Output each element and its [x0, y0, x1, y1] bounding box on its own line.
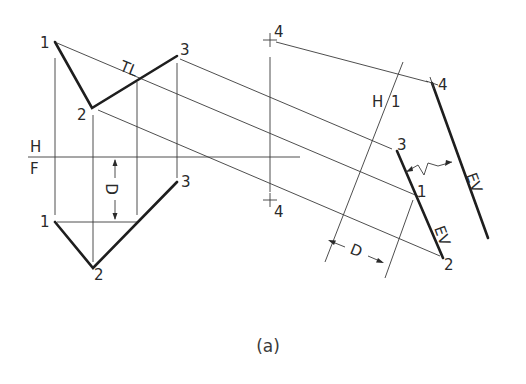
edge-view-label-plane: EV: [462, 170, 486, 195]
top-view-plane-edges: [55, 42, 177, 108]
fold-h1-right-label: 1: [391, 93, 401, 111]
true-length-line: [57, 43, 420, 197]
dimension-d-aux: D: [328, 240, 384, 263]
edge-distance-indicator: [406, 160, 452, 175]
aux-line-edge-view: [432, 83, 488, 238]
top-point-2-label: 2: [77, 106, 87, 124]
object-lines: [55, 42, 488, 268]
aux-point-1-label: 1: [417, 183, 427, 201]
descriptive-geometry-drawing: D D 1 2 3 4 TL H F 1 2 3 4 H 1 4 3 1: [0, 0, 526, 384]
point-4-markers: [263, 33, 438, 207]
front-point-2-label: 2: [94, 266, 104, 284]
front-view-plane-edges: [55, 182, 177, 268]
fold-h1-left-label: H: [372, 93, 383, 111]
labels: 1 2 3 4 TL H F 1 2 3 4 H 1 4 3 1 2 EV EV: [30, 23, 486, 284]
top-point-3-label: 3: [180, 41, 190, 59]
front-point-3-label: 3: [181, 173, 191, 191]
edge-view-label-line: EV: [430, 223, 454, 248]
front-point-1-label: 1: [40, 213, 50, 231]
projector-aux-4: [276, 42, 428, 82]
front-point-4-label: 4: [274, 203, 284, 221]
fold-hf-upper-label: H: [30, 138, 41, 156]
figure-caption: (a): [256, 336, 280, 356]
d-extension-line: [385, 200, 413, 278]
fold-hf-lower-label: F: [30, 160, 39, 178]
projection-lines: [55, 42, 440, 278]
aux-point-2-label: 2: [444, 256, 454, 274]
aux-point-3-label: 3: [397, 136, 407, 154]
dimension-label-d-front: D: [102, 183, 120, 195]
top-point-4-label: 4: [274, 23, 284, 41]
dimension-d-front: D: [102, 159, 120, 220]
top-point-1-label: 1: [40, 34, 50, 52]
dimension-label-d-aux: D: [347, 240, 364, 261]
projector-aux-3: [180, 59, 392, 149]
projector-aux-2: [98, 110, 440, 256]
aux-point-4-label: 4: [438, 76, 448, 94]
